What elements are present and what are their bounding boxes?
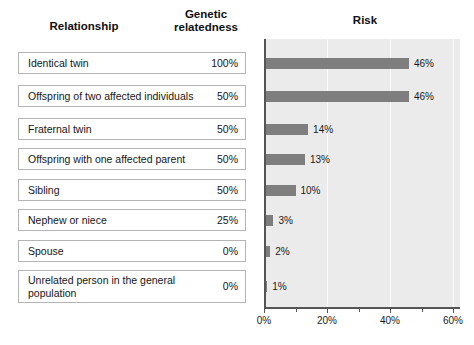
table-row: Offspring with one affected parent50%	[18, 148, 246, 170]
chart-bar-row: 46%	[264, 56, 434, 70]
chart-gridline	[453, 39, 454, 307]
chart-title: Risk	[256, 14, 474, 26]
chart-x-tick-label: 20%	[307, 315, 347, 326]
relationship-table-panel: Relationship Genetic relatedness Identic…	[0, 0, 256, 345]
chart-x-minor-tick	[359, 308, 360, 312]
table-row-relationship-label: Fraternal twin	[28, 123, 211, 136]
chart-bar-row: 1%	[264, 280, 287, 294]
chart-bar-value-label: 2%	[275, 246, 289, 257]
column-header-genetic-relatedness: Genetic relatedness	[160, 8, 252, 34]
chart-bar-value-label: 10%	[301, 185, 321, 196]
chart-x-tick-label: 0%	[244, 315, 284, 326]
chart-gridline	[390, 39, 391, 307]
chart-bar-row: 46%	[264, 89, 434, 103]
table-row: Spouse0%	[18, 240, 246, 262]
chart-x-minor-tick	[422, 308, 423, 312]
chart-x-tick	[264, 308, 265, 313]
chart-y-axis-line	[264, 39, 266, 308]
chart-bar-row: 13%	[264, 152, 330, 166]
table-row-relationship-label: Unrelated person in the general populati…	[28, 274, 217, 299]
table-row-relatedness-value: 50%	[211, 90, 238, 103]
table-row: Fraternal twin50%	[18, 118, 246, 140]
table-row-relatedness-value: 0%	[217, 280, 238, 293]
chart-x-tick	[390, 308, 391, 313]
table-row-relationship-label: Offspring with one affected parent	[28, 153, 211, 166]
table-row: Sibling50%	[18, 179, 246, 201]
chart-x-minor-tick	[296, 308, 297, 312]
chart-bar-row: 10%	[264, 183, 321, 197]
chart-x-tick-label: 40%	[370, 315, 410, 326]
table-row-relatedness-value: 50%	[211, 123, 238, 136]
chart-x-axis-line	[264, 307, 460, 309]
table-row: Unrelated person in the general populati…	[18, 270, 246, 303]
table-row-relatedness-value: 100%	[205, 57, 238, 70]
column-header-genetic-relatedness-line2: relatedness	[160, 21, 252, 34]
chart-bar	[264, 58, 409, 69]
table-row-relatedness-value: 50%	[211, 184, 238, 197]
chart-bar-value-label: 46%	[414, 91, 434, 102]
table-row-relationship-label: Identical twin	[28, 57, 205, 70]
chart-bar	[264, 185, 296, 196]
chart-bar-value-label: 14%	[313, 124, 333, 135]
table-row-relatedness-value: 0%	[217, 245, 238, 258]
column-header-relationship: Relationship	[18, 20, 150, 33]
table-row: Offspring of two affected individuals50%	[18, 85, 246, 107]
chart-bar	[264, 124, 308, 135]
risk-chart-panel: Risk 46%46%14%13%10%3%2%1% 0%20%40%60%	[256, 0, 474, 345]
chart-bar	[264, 154, 305, 165]
chart-bar	[264, 91, 409, 102]
chart-bar-row: 2%	[264, 244, 290, 258]
chart-bar-row: 3%	[264, 213, 293, 227]
chart-plot-area: 46%46%14%13%10%3%2%1%	[264, 39, 460, 307]
table-row-relationship-label: Spouse	[28, 245, 217, 258]
chart-gridline	[327, 39, 328, 307]
chart-bar-value-label: 1%	[272, 281, 286, 292]
table-row: Nephew or niece25%	[18, 209, 246, 231]
chart-x-tick-label: 60%	[433, 315, 473, 326]
chart-bar-value-label: 13%	[310, 154, 330, 165]
chart-bar-value-label: 46%	[414, 58, 434, 69]
chart-bar-row: 14%	[264, 122, 333, 136]
table-row-relatedness-value: 50%	[211, 153, 238, 166]
chart-x-tick	[453, 308, 454, 313]
table-row-relationship-label: Nephew or niece	[28, 214, 211, 227]
column-header-genetic-relatedness-line1: Genetic	[160, 8, 252, 21]
chart-bar-value-label: 3%	[278, 215, 292, 226]
table-row: Identical twin100%	[18, 52, 246, 74]
table-row-relationship-label: Sibling	[28, 184, 211, 197]
table-row-relationship-label: Offspring of two affected individuals	[28, 90, 211, 103]
table-row-relatedness-value: 25%	[211, 214, 238, 227]
chart-x-tick	[327, 308, 328, 313]
